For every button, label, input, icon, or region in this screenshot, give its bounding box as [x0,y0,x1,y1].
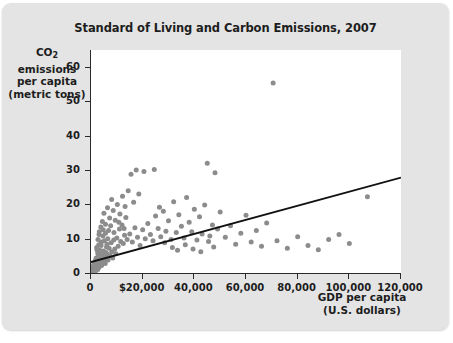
scatter-plot-svg [91,50,401,273]
data-point [191,246,196,251]
trendline [91,178,401,262]
data-point [126,188,131,193]
data-point [108,223,113,228]
data-point [295,234,300,239]
x-tick-mark [90,274,91,279]
data-point [104,244,109,249]
data-point [205,161,210,166]
x-tick-label: 60,000 [226,282,265,293]
data-point [337,232,342,237]
data-point [233,242,238,247]
data-point [271,80,276,85]
data-point [152,167,157,172]
data-points-group [91,80,370,273]
data-point [121,241,126,246]
y-tick-label: 30 [46,164,80,175]
data-point [184,195,189,200]
x-tick-label: 100,000 [326,282,372,293]
y-tick-label: 40 [46,130,80,141]
x-axis-label: GDP per capita (U.S. dollars) [282,291,442,316]
data-point [130,240,135,245]
data-point [223,235,228,240]
data-point [140,227,145,232]
data-point [148,232,153,237]
x-tick-label: 40,000 [174,282,213,293]
data-point [123,215,128,220]
data-point [117,211,122,216]
data-point [347,241,352,246]
data-point [163,229,168,234]
data-point [197,214,202,219]
data-point [105,205,110,210]
data-point [171,199,176,204]
data-point [166,218,171,223]
data-point [259,244,264,249]
data-point [101,211,106,216]
data-point [123,204,128,209]
data-point [95,237,100,242]
data-point [116,244,121,249]
data-point [114,236,119,241]
data-point [275,238,280,243]
data-point [143,236,148,241]
x-axis-label-line2: (U.S. dollars) [323,304,401,316]
x-tick-mark [142,274,143,279]
y-tick-label: 50 [46,95,80,106]
data-point [158,234,163,239]
data-point [117,227,122,232]
data-point [141,169,146,174]
data-point [174,230,179,235]
data-point [99,243,104,248]
data-point [316,247,321,252]
data-point [207,233,212,238]
data-point [218,209,223,214]
x-tick-mark [193,274,194,279]
y-axis-label-subscript: 2 [53,51,59,60]
figure-card: Standard of Living and Carbon Emissions,… [2,3,449,330]
x-tick-label: 0 [87,282,94,293]
data-point [122,233,127,238]
data-point [157,205,162,210]
data-point [115,202,120,207]
data-point [135,235,140,240]
plot-frame [90,50,401,274]
data-point [94,247,99,252]
data-point [106,228,111,233]
data-point [264,220,269,225]
y-tick-mark [85,101,90,102]
data-point [202,203,207,208]
data-point [131,200,136,205]
y-tick-label: 60 [46,61,80,72]
data-point [194,238,199,243]
data-point [122,226,127,231]
data-point [249,240,254,245]
data-point [206,239,211,244]
data-point [129,172,134,177]
data-point [244,213,249,218]
y-tick-mark [85,67,90,68]
y-tick-mark [85,170,90,171]
data-point [306,243,311,248]
data-point [151,238,156,243]
data-point [132,225,137,230]
x-tick-label: $20,000 [119,282,165,293]
data-point [285,246,290,251]
data-point [176,212,181,217]
data-point [116,220,121,225]
y-axis-label-line2: per capita [17,75,77,87]
data-point [105,236,110,241]
x-tick-mark [400,274,401,279]
x-tick-mark [297,274,298,279]
data-point [153,214,158,219]
data-point [101,249,106,254]
plot-area [91,50,401,273]
y-tick-mark [85,136,90,137]
data-point [192,207,197,212]
data-point [134,168,139,173]
data-point [145,221,150,226]
data-point [156,226,161,231]
x-tick-label: 80,000 [277,282,316,293]
data-point [365,194,370,199]
data-point [211,244,216,249]
data-point [238,231,243,236]
